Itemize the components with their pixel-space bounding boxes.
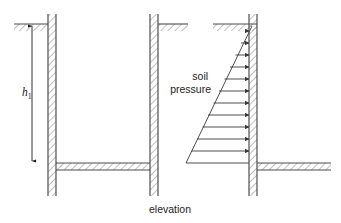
- dimension-label-h1: h1: [22, 86, 32, 101]
- soil-pressure-label-line2: pressure: [170, 83, 211, 95]
- ground-hatch-left: [14, 24, 48, 31]
- dimension-label-subscript: 1: [28, 92, 32, 101]
- soil-pressure-label-line1: soil: [192, 70, 208, 82]
- ground-hatch-middle-right: [158, 24, 188, 31]
- middle-wall: [150, 14, 158, 196]
- structure-elevation-panel: h1: [14, 14, 188, 196]
- left-wall: [48, 14, 56, 196]
- figure-caption: elevation: [149, 203, 191, 215]
- soil-pressure-label: soil pressure: [170, 70, 211, 95]
- elevation-diagram-svg: h1: [0, 0, 341, 223]
- floor-slab-right: [257, 163, 331, 170]
- elevation-figure: h1: [0, 0, 341, 223]
- right-wall: [249, 14, 257, 196]
- floor-slab-left: [56, 163, 150, 170]
- pressure-elevation-panel: soil pressure: [170, 14, 331, 196]
